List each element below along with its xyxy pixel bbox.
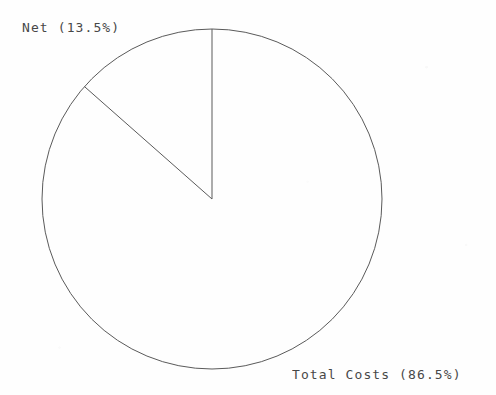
pie-slice-net bbox=[85, 29, 213, 199]
pie-slice-label-total-costs: Total Costs (86.5%) bbox=[292, 368, 462, 381]
pie-slice-boundary-net bbox=[85, 87, 213, 199]
pie-chart-figure: Net (13.5%) Total Costs (86.5%) bbox=[0, 0, 496, 395]
pie-slice-label-net: Net (13.5%) bbox=[22, 21, 120, 34]
pie-chart-canvas bbox=[0, 0, 496, 395]
